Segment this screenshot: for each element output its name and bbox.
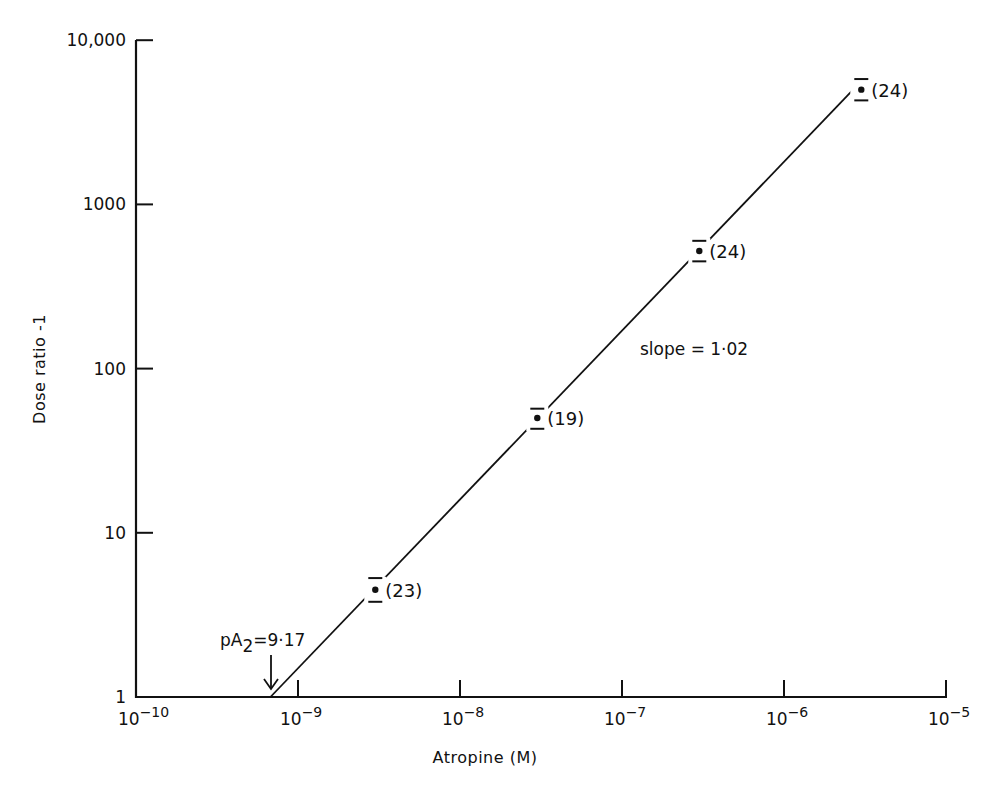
y-axis-label: Dose ratio -1 — [30, 314, 49, 424]
y-axis-ticks: 110100100010,000 — [67, 30, 153, 707]
n-label: (24) — [709, 241, 746, 262]
y-tick-label: 10,000 — [67, 30, 126, 50]
point-marker — [858, 86, 864, 92]
y-tick-label: 10 — [104, 523, 126, 543]
slope-annotation: slope = 1·02 — [640, 339, 748, 359]
point-marker — [372, 587, 378, 593]
down-arrow-icon — [264, 655, 278, 689]
x-axis-label: Atropine (M) — [433, 748, 538, 767]
data-point: (19) — [526, 405, 584, 431]
x-tick-label: 10−7 — [604, 704, 646, 729]
x-tick-label: 10−10 — [118, 704, 169, 729]
data-point: (24) — [688, 238, 746, 264]
y-tick-label: 100 — [94, 359, 126, 379]
n-label: (19) — [547, 408, 584, 429]
data-point: (23) — [364, 577, 422, 603]
x-tick-label: 10−9 — [280, 704, 322, 729]
data-points: (23)(19)(24)(24) — [364, 77, 908, 603]
pa2-label: pA2=9·17 — [220, 630, 305, 656]
x-axis-ticks: 10−1010−910−810−710−610−5 — [118, 680, 970, 729]
point-marker — [534, 415, 540, 421]
point-marker — [696, 248, 702, 254]
axes — [136, 40, 947, 698]
n-label: (23) — [385, 580, 422, 601]
y-tick-label: 1000 — [83, 194, 126, 214]
x-tick-label: 10−8 — [442, 704, 484, 729]
x-tick-label: 10−5 — [928, 704, 970, 729]
y-tick-label: 1 — [115, 687, 126, 707]
data-point: (24) — [850, 77, 908, 103]
schild-plot: 110100100010,000 10−1010−910−810−710−610… — [0, 0, 1002, 797]
regression-line — [270, 87, 855, 697]
x-tick-label: 10−6 — [766, 704, 808, 729]
pa2-annotation: pA2=9·17 — [220, 630, 305, 689]
n-label: (24) — [871, 80, 908, 101]
